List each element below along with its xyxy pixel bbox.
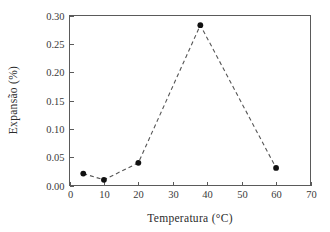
x-tick-label: 50 (237, 189, 248, 200)
series-markers-expansao (80, 22, 279, 183)
x-tick-label: 30 (168, 189, 179, 200)
data-point-marker (273, 165, 279, 171)
y-axis-tick-marks (70, 17, 74, 187)
line-chart-plot: 010203040506070 0.000.050.100.150.200.25… (0, 0, 330, 232)
data-series-group (80, 22, 279, 183)
y-tick-label: 0.05 (46, 152, 64, 163)
x-axis-tick-labels: 010203040506070 (68, 189, 317, 200)
y-tick-label: 0.25 (46, 39, 64, 50)
axis-frame-rect (70, 16, 311, 186)
x-axis-tick-marks (71, 182, 312, 186)
y-tick-label: 0.15 (46, 96, 64, 107)
data-point-marker (80, 171, 86, 177)
y-tick-label: 0.30 (46, 11, 64, 22)
y-axis-title: Expansão (%) (7, 66, 20, 134)
x-tick-label: 70 (306, 189, 317, 200)
x-tick-label: 10 (99, 189, 110, 200)
data-point-marker (135, 160, 141, 166)
x-tick-label: 40 (202, 189, 213, 200)
y-tick-label: 0.00 (46, 181, 64, 192)
x-axis-title: Temperatura (°C) (147, 212, 233, 225)
x-tick-label: 60 (271, 189, 282, 200)
series-line-expansao (83, 25, 276, 180)
x-tick-label: 0 (68, 189, 73, 200)
y-tick-label: 0.20 (46, 67, 64, 78)
chart-figure: 010203040506070 0.000.050.100.150.200.25… (0, 0, 330, 232)
y-axis-tick-labels: 0.000.050.100.150.200.250.30 (46, 11, 64, 192)
data-point-marker (197, 22, 203, 28)
plot-frame (70, 16, 311, 186)
data-point-marker (101, 177, 107, 183)
y-tick-label: 0.10 (46, 124, 64, 135)
x-tick-label: 20 (133, 189, 144, 200)
